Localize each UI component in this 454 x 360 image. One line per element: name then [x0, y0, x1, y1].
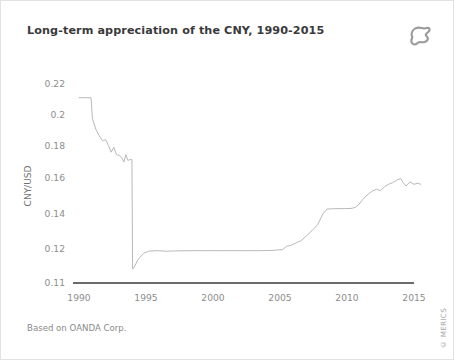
y-tick-label: 0.16 — [45, 172, 66, 183]
x-tick-label: 2005 — [268, 292, 292, 303]
y-tick-label: 0.12 — [45, 243, 65, 254]
data-series-line — [79, 98, 421, 269]
chart-card: Long-term appreciation of the CNY, 1990-… — [0, 0, 454, 360]
y-tick-label: 0.11 — [45, 277, 65, 288]
x-tick-label: 2010 — [335, 292, 359, 303]
x-axis-tick-labels: 1990 1995 2000 2005 2010 2015 — [67, 292, 426, 303]
chart-plot-area: 0.22 0.2 0.18 0.16 0.14 0.12 0.11 CNY/US… — [1, 1, 454, 360]
copyright-note: © MERICS — [439, 308, 448, 349]
source-note: Based on OANDA Corp. — [27, 323, 127, 333]
x-tick-label: 1990 — [67, 292, 91, 303]
y-tick-label: 0.2 — [50, 109, 65, 120]
y-axis-tick-labels: 0.22 0.2 0.18 0.16 0.14 0.12 0.11 — [45, 78, 66, 288]
x-tick-label: 2015 — [402, 292, 426, 303]
y-tick-label: 0.14 — [45, 208, 66, 219]
y-tick-label: 0.22 — [45, 78, 65, 89]
x-tick-label: 1995 — [134, 292, 158, 303]
x-tick-label: 2000 — [201, 292, 225, 303]
y-tick-label: 0.18 — [45, 140, 66, 151]
y-axis-title: CNY/USD — [23, 166, 33, 207]
